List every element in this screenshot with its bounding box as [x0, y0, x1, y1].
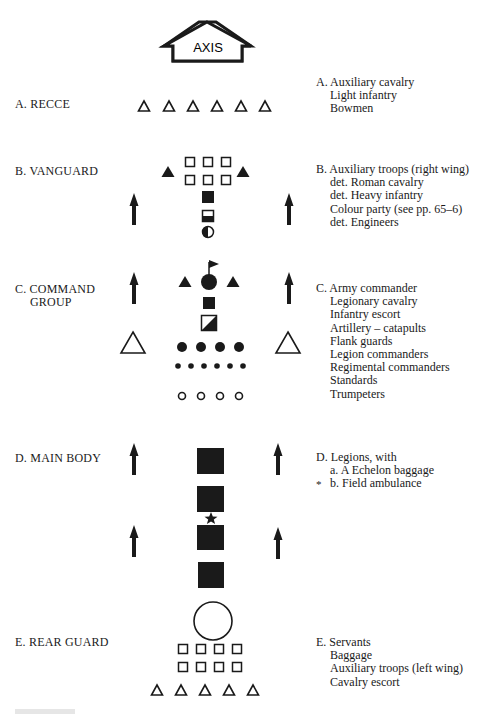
recce-triangles	[139, 101, 271, 111]
servants-circle-icon	[194, 602, 232, 640]
cropped-caption	[15, 709, 75, 714]
section-label-recce: A. RECCE	[15, 98, 70, 111]
legend-line: Infantry escort	[316, 308, 450, 321]
arrow-up-icon	[130, 193, 139, 225]
section-label-line: C. COMMAND	[15, 282, 95, 296]
artillery-icon	[202, 316, 217, 331]
arrow-up-icon	[285, 272, 294, 304]
section-label-line: GROUP	[15, 295, 72, 309]
arrow-up-icon	[130, 525, 139, 557]
flank-guard-triangle-icon	[121, 332, 145, 353]
arrow-up-icon	[285, 193, 294, 225]
engineers-icon	[203, 227, 214, 238]
main-body-symbols	[130, 443, 283, 588]
legend-line: det. Heavy infantry	[316, 189, 469, 202]
legend-command-group: C. Army commander Legionary cavalry Infa…	[316, 282, 450, 401]
section-label-rear-guard: E. REAR GUARD	[15, 636, 109, 649]
legend-rear-guard: E. Servants Baggage Auxiliary troops (le…	[316, 636, 463, 689]
legend-main-body: D. Legions, with a. A Echelon baggage * …	[316, 451, 434, 491]
cavalry-triangle-icon	[162, 166, 175, 177]
command-group-symbols	[121, 260, 300, 400]
rear-guard-symbols	[152, 602, 259, 695]
legend-line-starred: * b. Field ambulance	[316, 477, 434, 490]
legend-line: Artillery – catapults	[316, 322, 450, 335]
legend-recce: A. Auxiliary cavalry Light infantry Bowm…	[316, 76, 414, 116]
legend-line: Trumpeters	[316, 388, 450, 401]
field-ambulance-star-icon	[205, 512, 218, 524]
arrow-up-icon	[274, 443, 283, 475]
axis-arrow-icon: AXIS	[164, 22, 251, 61]
cavalry-triangle-icon	[237, 166, 250, 177]
section-label-command-group: C. COMMAND GROUP	[15, 283, 95, 309]
colour-party-icon	[203, 211, 214, 222]
section-label-main-body: D. MAIN BODY	[15, 452, 101, 465]
legend-line: Cavalry escort	[316, 676, 463, 689]
legend-line: det. Engineers	[316, 216, 469, 229]
axis-label: AXIS	[193, 40, 223, 55]
legend-vanguard: B. Auxiliary troops (right wing) det. Ro…	[316, 163, 469, 229]
flank-guard-triangle-icon	[276, 332, 300, 353]
legend-line: Auxiliary troops (left wing)	[316, 662, 463, 675]
heavy-infantry-square-icon	[202, 191, 214, 203]
section-label-vanguard: B. VANGUARD	[15, 165, 98, 178]
legend-line: Bowmen	[316, 102, 414, 115]
arrow-up-icon	[130, 272, 139, 304]
legend-line: Standards	[316, 374, 450, 387]
vanguard-symbols	[130, 158, 294, 238]
arrow-up-icon	[274, 527, 283, 559]
arrow-up-icon	[130, 443, 139, 475]
asterisk-marker: *	[316, 478, 322, 491]
army-commander-flag-icon	[201, 260, 219, 290]
legend-line: Colour party (see pp. 65–6)	[316, 203, 469, 216]
legend-line: b. Field ambulance	[316, 476, 422, 490]
